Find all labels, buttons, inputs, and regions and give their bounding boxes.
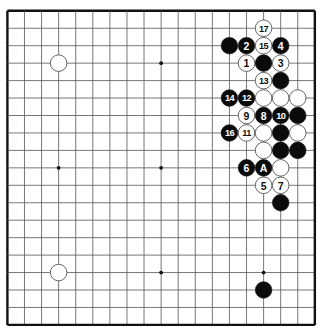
star-point: [57, 166, 61, 170]
move-number-label: 11: [242, 128, 251, 138]
move-number-label: 10: [276, 111, 286, 121]
move-number-label: 16: [225, 128, 235, 138]
move-number-label: 8: [261, 110, 267, 122]
white-stone[interactable]: [272, 160, 289, 177]
star-point: [159, 61, 163, 65]
move-number-label: 1: [244, 57, 250, 69]
white-stone-5[interactable]: 5: [255, 177, 272, 194]
black-stone[interactable]: [272, 142, 289, 159]
move-number-label: A: [260, 162, 268, 174]
white-stone-9[interactable]: 9: [238, 107, 255, 124]
star-point: [159, 166, 163, 170]
white-stone-15[interactable]: 15: [255, 37, 272, 54]
black-stone-10[interactable]: 10: [272, 107, 289, 124]
stone-disc: [50, 55, 67, 72]
move-number-label: 7: [278, 180, 284, 192]
star-point: [262, 271, 266, 275]
white-stone[interactable]: [50, 264, 67, 281]
black-stone-6[interactable]: 6: [238, 160, 255, 177]
black-stone-2[interactable]: 2: [238, 37, 255, 54]
stone-disc: [255, 90, 272, 107]
white-stone-13[interactable]: 13: [255, 72, 272, 89]
move-number-label: 15: [259, 41, 269, 51]
white-stone[interactable]: [289, 125, 306, 142]
black-stone-16[interactable]: 16: [221, 125, 238, 142]
stone-disc: [272, 125, 289, 142]
black-stone[interactable]: [289, 107, 306, 124]
move-number-label: 2: [244, 40, 250, 52]
move-number-label: 12: [242, 93, 252, 103]
stone-disc: [255, 55, 272, 72]
white-stone-17[interactable]: 17: [255, 20, 272, 37]
black-stone[interactable]: [289, 142, 306, 159]
stone-disc: [272, 194, 289, 211]
stone-disc: [289, 90, 306, 107]
black-stone-A[interactable]: A: [255, 160, 272, 177]
black-stone[interactable]: [221, 37, 238, 54]
white-stone[interactable]: [50, 55, 67, 72]
stone-disc: [272, 160, 289, 177]
stone-disc: [272, 142, 289, 159]
stone-disc: [272, 90, 289, 107]
stone-disc: [50, 264, 67, 281]
white-stone-1[interactable]: 1: [238, 55, 255, 72]
move-number-label: 3: [278, 57, 284, 69]
black-stone-4[interactable]: 4: [272, 37, 289, 54]
move-number-label: 5: [261, 180, 267, 192]
stone-disc: [289, 125, 306, 142]
white-stone[interactable]: [289, 90, 306, 107]
stone-disc: [255, 142, 272, 159]
stone-disc: [255, 282, 272, 299]
move-number-label: 17: [259, 24, 269, 34]
black-stone-14[interactable]: 14: [221, 90, 238, 107]
stone-disc: [289, 107, 306, 124]
white-stone-7[interactable]: 7: [272, 177, 289, 194]
black-stone[interactable]: [255, 55, 272, 72]
stone-disc: [272, 72, 289, 89]
white-stone-11[interactable]: 11: [238, 125, 255, 142]
stone-disc: [221, 37, 238, 54]
move-number-label: 13: [259, 76, 269, 86]
white-stone[interactable]: [272, 90, 289, 107]
star-point: [159, 271, 163, 275]
go-board[interactable]: 17215413131412981016116A57: [0, 0, 322, 336]
black-stone[interactable]: [272, 194, 289, 211]
move-number-label: 9: [244, 110, 250, 122]
move-number-label: 4: [278, 40, 284, 52]
move-number-label: 14: [225, 93, 236, 103]
stone-disc: [255, 125, 272, 142]
black-stone-8[interactable]: 8: [255, 107, 272, 124]
white-stone[interactable]: [255, 142, 272, 159]
black-stone[interactable]: [272, 72, 289, 89]
move-number-label: 6: [244, 162, 250, 174]
black-stone-12[interactable]: 12: [238, 90, 255, 107]
black-stone[interactable]: [255, 282, 272, 299]
white-stone[interactable]: [255, 125, 272, 142]
stone-disc: [289, 142, 306, 159]
black-stone[interactable]: [272, 125, 289, 142]
white-stone[interactable]: [255, 90, 272, 107]
white-stone-3[interactable]: 3: [272, 55, 289, 72]
